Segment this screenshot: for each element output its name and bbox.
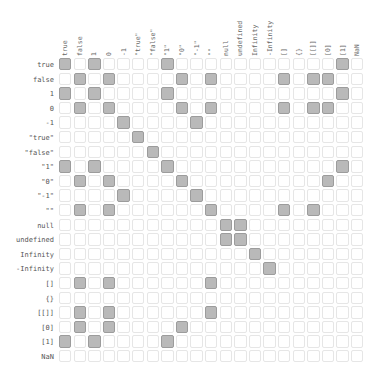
matrix-cell <box>307 131 319 143</box>
matrix-cell <box>234 262 246 274</box>
matrix-cell <box>249 146 261 158</box>
matrix-cell <box>293 248 305 260</box>
matrix-cell <box>278 233 290 245</box>
matrix-cell <box>74 204 86 216</box>
matrix-cell <box>278 58 290 70</box>
matrix-cell <box>322 350 334 362</box>
matrix-cell <box>263 335 275 347</box>
matrix-cell <box>88 321 100 333</box>
matrix-cell <box>103 233 115 245</box>
matrix-cell <box>147 204 159 216</box>
matrix-cell <box>307 146 319 158</box>
matrix-cell <box>234 292 246 304</box>
matrix-cell <box>263 233 275 245</box>
matrix-cell <box>190 321 202 333</box>
matrix-cell <box>74 116 86 128</box>
matrix-cell <box>190 160 202 172</box>
matrix-cell <box>336 219 348 231</box>
matrix-cell <box>103 73 115 85</box>
matrix-cell <box>336 262 348 274</box>
matrix-cell <box>132 175 144 187</box>
matrix-cell <box>147 87 159 99</box>
matrix-cell <box>132 292 144 304</box>
matrix-cell <box>234 233 246 245</box>
matrix-cell <box>190 58 202 70</box>
matrix-cell <box>88 58 100 70</box>
matrix-cell <box>117 233 129 245</box>
matrix-cell <box>351 262 363 274</box>
matrix-cell <box>336 73 348 85</box>
matrix-cell <box>190 350 202 362</box>
matrix-cell <box>88 306 100 318</box>
matrix-cell <box>103 219 115 231</box>
matrix-cell <box>176 175 188 187</box>
matrix-cell <box>307 189 319 201</box>
matrix-cell <box>74 58 86 70</box>
matrix-cell <box>307 58 319 70</box>
matrix-cell <box>117 292 129 304</box>
matrix-cell <box>336 321 348 333</box>
matrix-cell <box>74 233 86 245</box>
matrix-cell <box>176 160 188 172</box>
matrix-cell <box>74 262 86 274</box>
matrix-cell <box>103 292 115 304</box>
matrix-cell <box>88 160 100 172</box>
matrix-cell <box>88 277 100 289</box>
matrix-cell <box>88 102 100 114</box>
matrix-cell <box>263 321 275 333</box>
matrix-cell <box>205 219 217 231</box>
row-label: true <box>0 58 54 73</box>
column-label: "0" <box>176 4 191 56</box>
matrix-cell <box>88 219 100 231</box>
matrix-cell <box>234 219 246 231</box>
matrix-cell <box>249 277 261 289</box>
matrix-cell <box>220 262 232 274</box>
matrix-cell <box>263 102 275 114</box>
matrix-cell <box>278 87 290 99</box>
matrix-cell <box>74 350 86 362</box>
matrix-cell <box>161 73 173 85</box>
matrix-cell <box>117 146 129 158</box>
matrix-cell <box>263 306 275 318</box>
matrix-cell <box>103 335 115 347</box>
matrix-cell <box>132 219 144 231</box>
matrix-cell <box>322 131 334 143</box>
matrix-cell <box>293 233 305 245</box>
matrix-cell <box>307 292 319 304</box>
column-label: "" <box>205 4 220 56</box>
matrix-cell <box>263 87 275 99</box>
matrix-cell <box>205 175 217 187</box>
matrix-cell <box>190 277 202 289</box>
matrix-cell <box>322 102 334 114</box>
matrix-cell <box>293 204 305 216</box>
matrix-cell <box>88 146 100 158</box>
matrix-cell <box>103 131 115 143</box>
row-label: [0] <box>0 321 54 336</box>
matrix-cell <box>117 58 129 70</box>
matrix-cell <box>234 58 246 70</box>
row-label: "1" <box>0 160 54 175</box>
matrix-cell <box>59 321 71 333</box>
matrix-cell <box>293 292 305 304</box>
matrix-cell <box>161 175 173 187</box>
matrix-cell <box>351 248 363 260</box>
matrix-cell <box>117 277 129 289</box>
matrix-cell <box>117 160 129 172</box>
matrix-cell <box>59 102 71 114</box>
matrix-cell <box>176 131 188 143</box>
matrix-cell <box>74 175 86 187</box>
matrix-cell <box>59 58 71 70</box>
matrix-cell <box>88 204 100 216</box>
matrix-cell <box>263 262 275 274</box>
matrix-cell <box>117 87 129 99</box>
matrix-cell <box>132 58 144 70</box>
matrix-cell <box>88 189 100 201</box>
matrix-cell <box>278 189 290 201</box>
matrix-cell <box>117 335 129 347</box>
matrix-cell <box>59 87 71 99</box>
column-label: -1 <box>117 4 132 56</box>
matrix-cell <box>263 277 275 289</box>
matrix-cell <box>74 306 86 318</box>
matrix-cell <box>307 321 319 333</box>
matrix-cell <box>249 189 261 201</box>
